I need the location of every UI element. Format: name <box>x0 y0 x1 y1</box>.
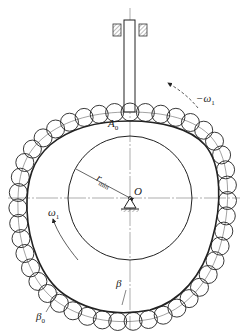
beta-leader <box>122 290 126 305</box>
minus-omega-arrow <box>168 83 198 108</box>
label-minus-omega-sub: 1 <box>211 99 215 107</box>
label-a0: A0 <box>108 118 118 132</box>
cam-mechanism-diagram <box>0 0 246 335</box>
label-beta: β <box>116 278 121 289</box>
label-minus-omega: −ω1 <box>196 93 215 107</box>
label-omega-sub: 1 <box>56 213 60 221</box>
label-o: O <box>134 186 142 197</box>
pivot-support <box>121 196 139 212</box>
label-a0-main: A <box>108 117 115 129</box>
follower-stem <box>124 20 135 112</box>
label-omega-main: ω <box>48 206 56 218</box>
label-a0-sub: 0 <box>115 124 119 132</box>
label-omega: ω1 <box>48 207 59 221</box>
label-beta0-sub: 0 <box>41 317 45 325</box>
label-beta0: β0 <box>36 311 45 325</box>
roller-positions <box>9 103 237 331</box>
